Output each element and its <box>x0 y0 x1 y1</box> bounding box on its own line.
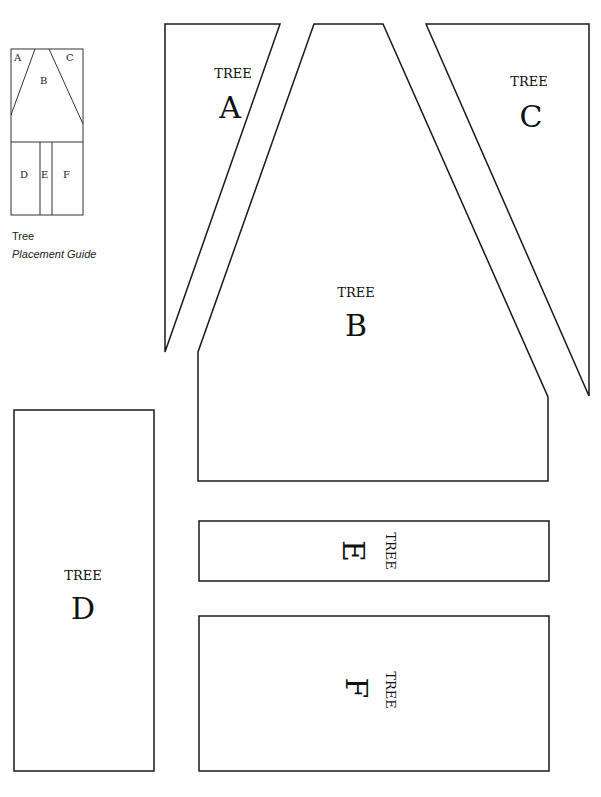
piece-c-outline <box>426 24 589 396</box>
guide-label-d: D <box>20 169 28 180</box>
piece-b-word: TREE <box>337 285 374 300</box>
pattern-sheet: A B C D E F TREE A TREE B TREE C TREE D … <box>0 0 601 797</box>
placement-guide <box>11 49 83 215</box>
piece-f-letter: F <box>339 678 374 699</box>
guide-title: Tree <box>12 230 34 242</box>
piece-b-letter: B <box>345 308 367 343</box>
guide-label-a: A <box>13 52 22 63</box>
piece-b-outline <box>198 24 548 481</box>
piece-d-letter: D <box>71 591 95 626</box>
piece-d-word: TREE <box>64 568 101 583</box>
piece-e-outline <box>199 521 549 581</box>
piece-a-word: TREE <box>214 66 251 81</box>
guide-subtitle: Placement Guide <box>12 248 96 260</box>
guide-outline <box>11 49 83 215</box>
piece-a-letter: A <box>218 90 241 125</box>
guide-label-b: B <box>40 75 47 86</box>
piece-c-word: TREE <box>510 74 547 89</box>
piece-c-letter: C <box>520 99 543 134</box>
guide-label-f: F <box>63 169 70 180</box>
guide-labels: A B C D E F <box>13 52 74 180</box>
guide-label-e: E <box>41 169 48 180</box>
piece-e-letter: E <box>336 540 371 562</box>
piece-f-word: TREE <box>383 671 398 708</box>
guide-label-c: C <box>66 52 74 63</box>
piece-e-word: TREE <box>383 532 398 569</box>
